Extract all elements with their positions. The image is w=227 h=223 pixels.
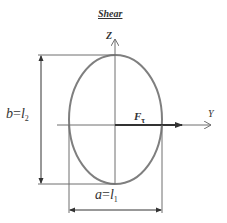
- y-axis-label: Y: [208, 108, 214, 119]
- shear-cross-section-diagram: Shear Z Y Fτ b=l2 a=l1: [0, 0, 227, 223]
- height-dimension-label: b=l2: [6, 106, 29, 123]
- diagram-title: Shear: [98, 8, 122, 19]
- height-subscript: 2: [25, 114, 29, 123]
- z-axis-label: Z: [106, 30, 112, 41]
- width-subscript: 1: [114, 195, 118, 204]
- height-equals: =: [13, 106, 21, 121]
- width-equals: =: [102, 187, 110, 202]
- force-subscript: τ: [141, 116, 145, 125]
- force-label: Fτ: [134, 110, 145, 125]
- width-var: a: [95, 187, 102, 202]
- height-var: b: [6, 106, 13, 121]
- width-dimension-label: a=l1: [95, 187, 118, 204]
